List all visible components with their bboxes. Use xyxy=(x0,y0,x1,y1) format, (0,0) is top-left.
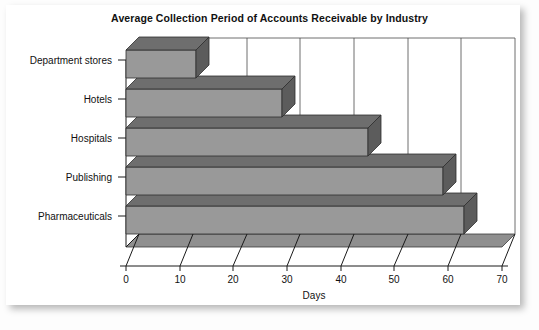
chart-plot-area: Department stores Hotels Hospitals Publi… xyxy=(0,0,539,330)
category-label-department-stores: Department stores xyxy=(30,55,112,66)
xtick-label-50: 50 xyxy=(388,274,400,285)
xtick-label-20: 20 xyxy=(227,274,239,285)
category-label-hospitals: Hospitals xyxy=(71,133,112,144)
x-axis-title: Days xyxy=(303,290,326,301)
xtick-label-30: 30 xyxy=(281,274,293,285)
bar-hospitals xyxy=(126,115,381,156)
xtick-label-60: 60 xyxy=(442,274,454,285)
bar-department-stores xyxy=(126,37,209,78)
xtick-label-0: 0 xyxy=(123,274,129,285)
xtick-label-70: 70 xyxy=(496,274,508,285)
xtick-label-10: 10 xyxy=(174,274,186,285)
xtick-label-40: 40 xyxy=(335,274,347,285)
bar-publishing xyxy=(126,154,456,195)
category-label-publishing: Publishing xyxy=(66,172,112,183)
bar-hotels xyxy=(126,76,295,117)
category-label-hotels: Hotels xyxy=(84,94,112,105)
chart-figure: Average Collection Period of Accounts Re… xyxy=(0,0,539,330)
bar-pharmaceuticals xyxy=(126,193,477,234)
category-label-pharmaceuticals: Pharmaceuticals xyxy=(38,211,112,222)
